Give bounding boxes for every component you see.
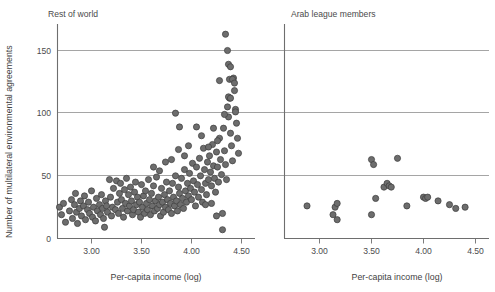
data-point [150,164,156,170]
data-point [210,125,216,131]
left-x-tick-labels: 3.00 3.50 4.00 4.50 [83,246,250,256]
data-point [110,185,116,191]
data-point [176,124,182,130]
data-point [196,155,202,161]
data-point [175,184,181,190]
gridlines [57,51,489,176]
y-tick-label-100: 100 [37,108,52,118]
right-x-tick-label-300: 3.00 [311,246,328,256]
data-point [125,192,131,198]
y-tick-label-150: 150 [37,46,52,56]
data-point [231,88,237,94]
data-point [227,95,233,101]
data-point [222,31,228,37]
data-point [202,202,208,208]
left-x-axis-title: Per-capita income (log) [111,272,202,282]
data-point [82,217,88,223]
data-point [81,193,87,199]
data-point [227,130,233,136]
data-point [207,169,213,175]
data-point [304,203,310,209]
data-point [168,210,174,216]
data-point [158,185,164,191]
data-point [235,150,241,156]
data-point [224,47,230,53]
data-point [462,204,468,210]
data-point [120,214,126,220]
data-point [163,179,169,185]
data-point [394,155,400,161]
left-panel-data-points [56,31,241,233]
data-point [185,143,191,149]
data-point [234,135,240,141]
data-point [132,179,138,185]
data-point [228,143,234,149]
data-point [221,148,227,154]
data-point [388,184,394,190]
data-point [145,176,151,182]
right-panel-title: Arab league members [291,9,376,19]
data-point [100,215,106,221]
data-point [425,194,431,200]
right-x-tick-label-400: 4.00 [415,246,432,256]
data-point [212,189,218,195]
left-panel-title: Rest of world [48,9,98,19]
data-point [334,217,340,223]
left-x-tick-label-350: 3.50 [133,246,150,256]
data-point [178,175,184,181]
data-point [153,174,159,180]
data-point [148,190,154,196]
data-point [330,212,336,218]
data-point [162,159,168,165]
data-point [169,180,175,186]
data-point [142,188,148,194]
data-point [220,125,226,131]
data-point [453,205,459,211]
data-point [213,149,219,155]
data-point [117,180,123,186]
data-point [214,138,220,144]
y-tick-label-50: 50 [41,171,51,181]
data-point [74,220,80,226]
data-point [103,203,109,209]
data-point [192,203,198,209]
data-point [62,219,68,225]
data-point [218,171,224,177]
data-point [229,158,235,164]
data-point [205,176,211,182]
data-point [224,104,230,110]
data-point [60,200,66,206]
data-point [368,212,374,218]
y-axis-title: Number of multilateral environmental agr… [4,45,14,238]
data-point [58,212,64,218]
data-point [172,173,178,179]
data-point [221,111,227,117]
data-point [205,144,211,150]
data-point [106,176,112,182]
data-point [72,190,78,196]
data-point [217,156,223,162]
left-x-tick-label-400: 4.00 [183,246,200,256]
data-point [208,200,214,206]
data-point [232,109,238,115]
data-point [215,179,221,185]
data-point [174,208,180,214]
data-point [156,168,162,174]
data-point [172,110,178,116]
data-point [222,161,228,167]
data-point [69,215,75,221]
data-point [198,187,204,193]
y-tick-labels: 150 100 50 0 [37,46,52,244]
data-point [85,199,91,205]
right-x-tick-label-350: 3.50 [363,246,380,256]
data-point [446,202,452,208]
data-point [227,64,233,70]
right-panel-data-points [304,155,468,223]
right-x-tick-labels: 3.00 3.50 4.00 4.50 [311,246,484,256]
data-point [146,197,152,203]
left-x-tick-label-300: 3.00 [83,246,100,256]
left-x-tick-label-450: 4.50 [233,246,250,256]
data-point [213,213,219,219]
data-point [219,227,225,233]
data-point [206,153,212,159]
